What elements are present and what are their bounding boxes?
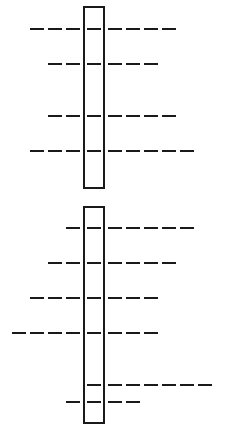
- band-dash-left: [12, 332, 26, 334]
- band-dash-right: [108, 63, 122, 65]
- band-dash-left: [48, 115, 62, 117]
- band-dash-left: [48, 63, 62, 65]
- lower-column-rect: [83, 206, 105, 424]
- band-dash-right: [126, 262, 140, 264]
- band-dash-right: [162, 227, 176, 229]
- band-dash-right: [108, 332, 122, 334]
- band-dash-right: [144, 28, 158, 30]
- band-dash-inside: [87, 332, 101, 334]
- upper-column-rect: [83, 6, 105, 189]
- band-dash-left: [66, 332, 80, 334]
- band-dash-right: [144, 384, 158, 386]
- band-dash-right: [144, 63, 158, 65]
- band-dash-right: [144, 227, 158, 229]
- band-dash-left: [66, 115, 80, 117]
- band-dash-right: [162, 384, 176, 386]
- band-dash-right: [126, 63, 140, 65]
- band-dash-inside: [87, 115, 101, 117]
- band-dash-right: [126, 384, 140, 386]
- band-dash-right: [180, 150, 194, 152]
- band-dash-right: [108, 150, 122, 152]
- band-dash-left: [48, 332, 62, 334]
- band-dash-inside: [87, 401, 101, 403]
- band-dash-left: [66, 401, 80, 403]
- band-dash-right: [162, 150, 176, 152]
- band-dash-left: [66, 63, 80, 65]
- band-dash-right: [180, 384, 194, 386]
- band-dash-left: [48, 297, 62, 299]
- band-dash-right: [108, 297, 122, 299]
- band-dash-right: [144, 150, 158, 152]
- band-dash-inside: [87, 63, 101, 65]
- band-dash-right: [144, 332, 158, 334]
- band-dash-right: [108, 262, 122, 264]
- band-dash-left: [48, 262, 62, 264]
- band-dash-left: [30, 332, 44, 334]
- band-dash-inside: [87, 297, 101, 299]
- band-dash-right: [162, 115, 176, 117]
- band-dash-left: [66, 297, 80, 299]
- band-dash-right: [126, 401, 140, 403]
- band-dash-right: [198, 384, 212, 386]
- band-dash-left: [30, 28, 44, 30]
- band-dash-right: [126, 227, 140, 229]
- band-dash-right: [108, 28, 122, 30]
- band-dash-left: [48, 28, 62, 30]
- band-dash-right: [144, 297, 158, 299]
- band-dash-right: [126, 28, 140, 30]
- band-dash-inside: [87, 262, 101, 264]
- band-dash-right: [180, 227, 194, 229]
- band-dash-right: [162, 28, 176, 30]
- band-dash-left: [30, 297, 44, 299]
- band-dash-left: [66, 262, 80, 264]
- band-dash-right: [126, 332, 140, 334]
- band-dash-inside: [87, 384, 101, 386]
- band-dash-left: [66, 28, 80, 30]
- band-dash-inside: [87, 28, 101, 30]
- band-dash-left: [66, 150, 80, 152]
- band-dash-inside: [87, 227, 101, 229]
- band-dash-left: [48, 150, 62, 152]
- band-dash-right: [108, 227, 122, 229]
- band-dash-right: [108, 401, 122, 403]
- band-dash-right: [162, 262, 176, 264]
- band-dash-left: [66, 227, 80, 229]
- band-dash-right: [108, 115, 122, 117]
- band-dash-right: [108, 384, 122, 386]
- band-dash-right: [144, 262, 158, 264]
- band-dash-inside: [87, 150, 101, 152]
- band-dash-right: [126, 150, 140, 152]
- band-dash-right: [126, 115, 140, 117]
- band-dash-right: [144, 115, 158, 117]
- band-dash-right: [126, 297, 140, 299]
- band-dash-left: [30, 150, 44, 152]
